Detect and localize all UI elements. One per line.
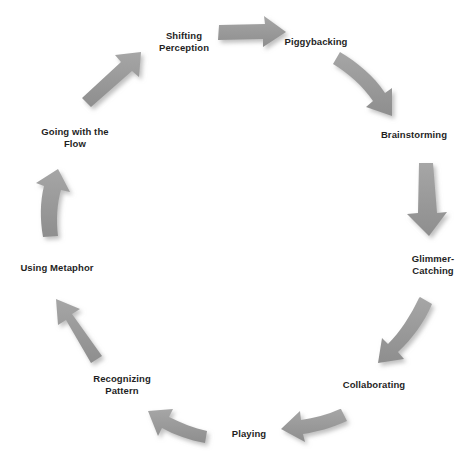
node-label-piggybacking: Piggybacking [285, 36, 348, 48]
node-label-glimmer-catching: Glimmer- Catching [412, 253, 455, 277]
arrow-metaphor-to-flow [36, 169, 70, 237]
node-label-shifting-perception: Shifting Perception [159, 30, 209, 54]
node-label-going-with-the-flow: Going with the Flow [41, 126, 108, 150]
arrow-brainstorming-to-glimmer [407, 163, 447, 236]
node-label-playing: Playing [232, 428, 267, 440]
node-label-brainstorming: Brainstorming [381, 129, 447, 141]
arrow-recognizing-to-metaphor [56, 299, 102, 363]
arrow-layer [0, 0, 476, 466]
arrow-glimmer-to-collaborating [378, 297, 432, 363]
arrow-playing-to-recognizing [148, 409, 207, 443]
node-label-using-metaphor: Using Metaphor [20, 262, 93, 274]
node-label-collaborating: Collaborating [343, 379, 406, 391]
arrow-flow-to-shifting [82, 52, 141, 107]
cycle-diagram: Shifting Perception Piggybacking Brainst… [0, 0, 476, 466]
node-label-recognizing-pattern: Recognizing Pattern [93, 373, 151, 397]
arrow-piggybacking-to-brainstorming [333, 52, 392, 116]
arrow-shifting-to-piggybacking [218, 16, 286, 47]
arrow-collaborating-to-playing [281, 409, 347, 442]
